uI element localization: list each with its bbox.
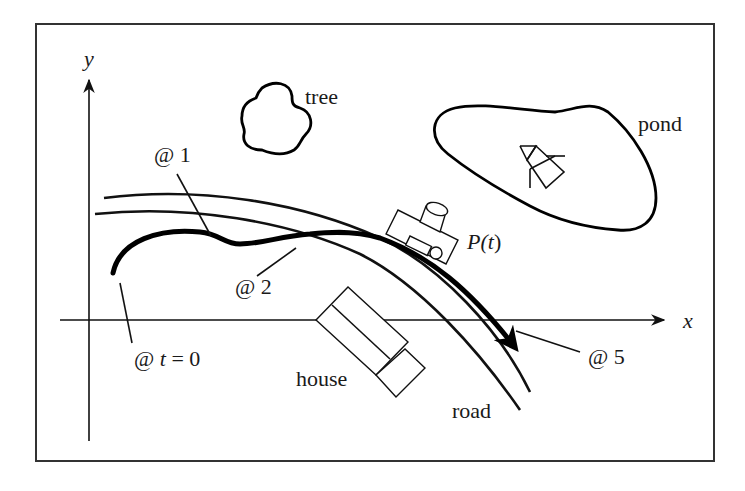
y-axis-label: y xyxy=(82,46,94,71)
position-label: P(t) xyxy=(466,229,501,254)
time-marker-t1-label: @ 1 xyxy=(154,142,191,167)
road-label: road xyxy=(452,398,491,423)
house: house xyxy=(296,287,425,397)
boat-icon xyxy=(520,146,565,188)
time-marker-t2-label: @ 2 xyxy=(235,274,272,299)
x-axis-label: x xyxy=(682,308,693,333)
time-marker-t0: @ t = 0 xyxy=(120,283,200,371)
house-label: house xyxy=(296,366,347,391)
time-marker-t0-label: @ t = 0 xyxy=(134,346,200,371)
pond-label: pond xyxy=(638,111,682,136)
camera-icon xyxy=(386,200,458,264)
time-marker-t5: @ 5 xyxy=(516,331,625,369)
time-marker-t5-label: @ 5 xyxy=(588,344,625,369)
time-marker-t1: @ 1 xyxy=(154,142,211,236)
tree: tree xyxy=(242,83,338,153)
pond-outline-icon xyxy=(434,106,656,230)
particle-path-diagram: y x tree pond road house xyxy=(0,0,745,491)
tree-outline-icon xyxy=(242,83,311,153)
axes: y x xyxy=(60,46,693,441)
pond: pond xyxy=(434,106,682,230)
time-marker-t2: @ 2 xyxy=(235,248,296,299)
tree-label: tree xyxy=(305,84,338,109)
